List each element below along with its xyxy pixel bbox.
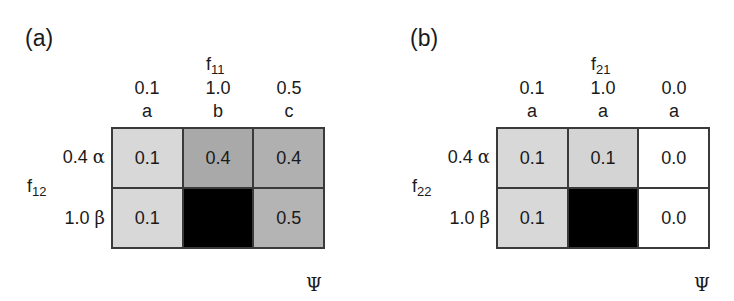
row-weight: 0.4 xyxy=(63,147,88,167)
column-factor-label: f21 xyxy=(591,55,610,76)
column-letter: c xyxy=(253,102,325,120)
column-letter: a xyxy=(638,102,710,120)
column-weight: 1.0 xyxy=(182,79,254,97)
grid-cell: 0.5 xyxy=(253,188,324,248)
grid-cell: 0.4 xyxy=(253,128,324,188)
grid-cell: 0.1 xyxy=(112,188,183,248)
row-factor-label: f12 xyxy=(27,177,46,198)
beta-symbol: β xyxy=(95,207,105,228)
panel-b: (b) f21 0.1 1.0 0.0 a a a f22 0.4 α 1.0 … xyxy=(367,0,734,301)
column-letter: a xyxy=(496,102,568,120)
grid-cell: 0.1 xyxy=(497,128,568,188)
alpha-symbol: α xyxy=(93,146,105,167)
factor-subscript: 21 xyxy=(596,62,610,77)
grid-cell-blocked xyxy=(183,188,254,248)
grid-cell: 0.1 xyxy=(497,188,568,248)
row-weight: 0.4 xyxy=(448,147,473,167)
panel-label: (a) xyxy=(25,27,53,50)
column-letter: a xyxy=(111,102,183,120)
column-weight: 1.0 xyxy=(567,79,639,97)
column-factor-label: f11 xyxy=(206,55,225,76)
row-weight: 1.0 xyxy=(450,208,475,228)
column-letter: b xyxy=(182,102,254,120)
grid-cell: 0.4 xyxy=(183,128,254,188)
grid-cell: 0.1 xyxy=(568,128,639,188)
beta-symbol: β xyxy=(480,207,490,228)
column-weight: 0.1 xyxy=(496,79,568,97)
grid-cell: 0.0 xyxy=(638,188,709,248)
factor-subscript: 22 xyxy=(417,184,431,199)
grid-cell: 0.1 xyxy=(112,128,183,188)
factor-subscript: 11 xyxy=(211,62,225,77)
factor-subscript: 12 xyxy=(32,184,46,199)
psi-symbol: Ψ xyxy=(694,276,710,294)
row-label: 0.4 α xyxy=(410,148,490,166)
column-letter: a xyxy=(567,102,639,120)
probability-grid: 0.1 0.4 0.4 0.1 0.5 xyxy=(111,127,325,249)
row-factor-label: f22 xyxy=(412,177,431,198)
panel-a: (a) f11 0.1 1.0 0.5 a b c f12 0.4 α 1.0 … xyxy=(0,0,367,301)
grid-cell: 0.0 xyxy=(638,128,709,188)
row-label: 1.0 β xyxy=(25,209,105,227)
grid-cell-blocked xyxy=(568,188,639,248)
row-label: 1.0 β xyxy=(410,209,490,227)
panel-label: (b) xyxy=(410,27,438,50)
alpha-symbol: α xyxy=(478,146,490,167)
probability-grid: 0.1 0.1 0.0 0.1 0.0 xyxy=(496,127,710,249)
column-weight: 0.0 xyxy=(638,79,710,97)
column-weight: 0.5 xyxy=(253,79,325,97)
psi-symbol: Ψ xyxy=(306,276,322,294)
row-weight: 1.0 xyxy=(65,208,90,228)
row-label: 0.4 α xyxy=(25,148,105,166)
column-weight: 0.1 xyxy=(111,79,183,97)
